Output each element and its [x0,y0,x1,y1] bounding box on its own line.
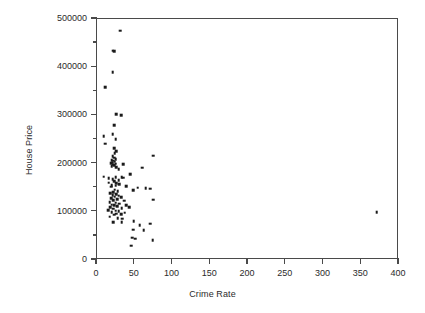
x-axis-tick-label: 200 [239,268,254,278]
data-point [113,124,116,127]
data-point [125,185,128,188]
data-point [117,217,120,220]
x-axis-tick-label: 250 [277,268,292,278]
data-point [120,114,123,117]
data-point [111,71,114,74]
data-point [117,179,120,182]
data-point [129,173,132,176]
data-point [104,86,107,89]
data-point [142,229,145,232]
data-point [114,138,117,141]
y-axis-tick-label: 300000 [32,109,87,119]
data-point [115,113,118,116]
data-point [132,220,135,223]
data-point [120,221,123,224]
data-point [122,163,125,166]
y-axis-tick-label: 200000 [32,158,87,168]
data-point [119,29,122,32]
data-point [117,190,120,193]
data-point [113,213,116,216]
data-point [122,176,125,179]
data-point [116,198,119,201]
y-axis-title: House Price [24,125,34,175]
data-point [123,199,126,202]
data-point [128,206,131,209]
data-point [111,133,114,136]
y-axis-tick-label: 500000 [32,13,87,23]
x-axis-tick-label: 0 [93,268,98,278]
data-point [134,237,137,240]
data-point [117,168,120,171]
data-points-layer [96,18,398,259]
y-axis-tick-label: 100000 [32,206,87,216]
data-point [104,143,107,146]
data-point [149,187,152,190]
data-point [120,213,123,216]
data-point [149,223,152,226]
data-point [108,177,111,180]
data-point [116,205,119,208]
data-point [141,167,144,170]
data-point [114,152,117,155]
data-point [120,207,123,210]
x-axis-tick-label: 100 [164,268,179,278]
data-point [111,165,114,168]
data-point [112,221,115,224]
data-point [102,135,105,138]
data-point [152,155,155,158]
data-point [138,224,141,227]
data-point [108,215,111,218]
data-point [132,228,135,231]
data-point [151,239,154,242]
data-point [107,209,110,212]
data-point [114,184,117,187]
data-point [118,183,121,186]
data-point [152,198,155,201]
data-point [102,175,105,178]
data-point [120,196,123,199]
data-point [123,211,126,214]
data-point [136,186,139,189]
x-axis-tick-label: 50 [129,268,139,278]
scatter-chart-figure: 0100000200000300000400000500000050100150… [0,0,425,313]
x-axis-title: Crime Rate [0,289,425,299]
y-axis-tick-label: 0 [32,254,87,264]
data-point [121,217,124,220]
x-axis-tick-label: 300 [315,268,330,278]
data-point [130,244,133,247]
x-axis-tick-label: 150 [202,268,217,278]
data-point [115,212,118,215]
data-point [110,185,113,188]
y-axis-tick-label: 400000 [32,61,87,71]
data-point [145,187,148,190]
x-axis-tick-label: 400 [390,268,405,278]
data-point [118,202,121,205]
data-point [376,211,379,214]
data-point [113,50,116,53]
data-point [132,189,135,192]
x-axis-tick-label: 350 [353,268,368,278]
